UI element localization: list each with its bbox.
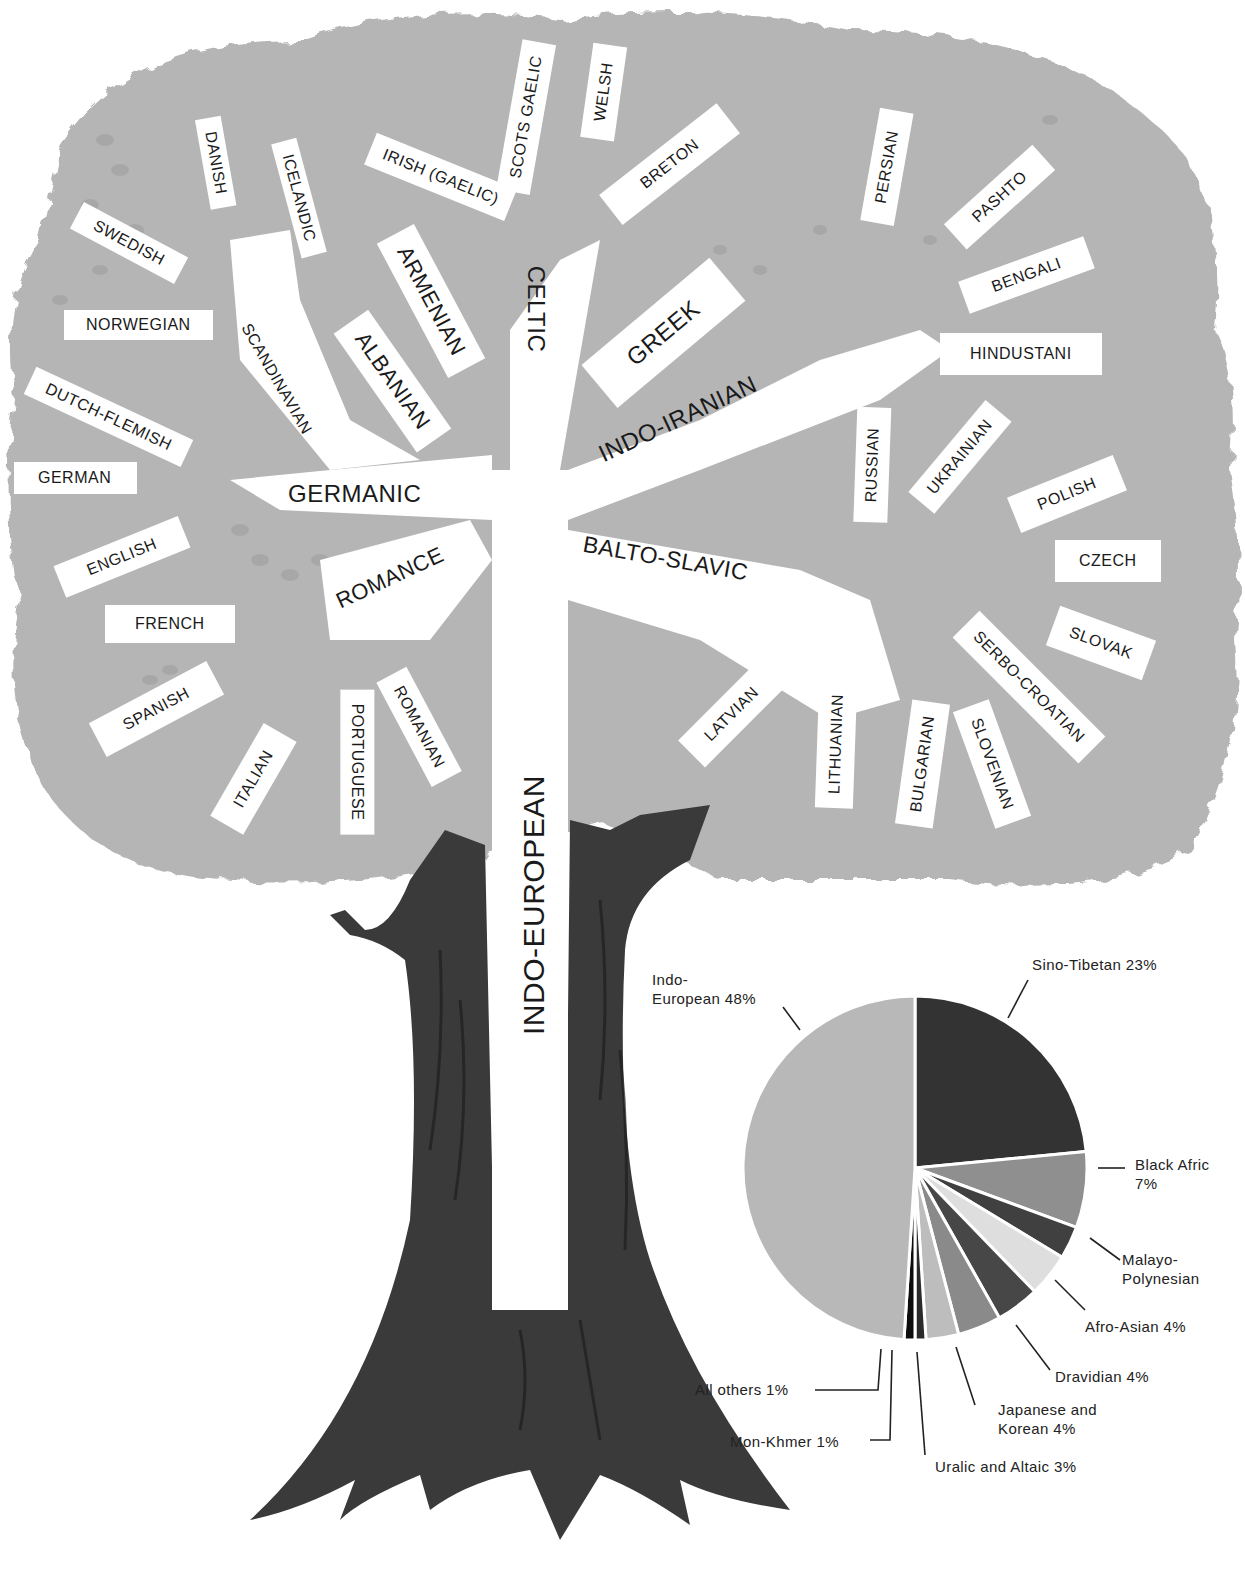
pie-label-malayo-polynesian: Malayo- Polynesian: [1122, 1250, 1199, 1288]
pie-label-uralic-altaic: Uralic and Altaic 3%: [935, 1457, 1076, 1476]
pie-label-malayo-polynesian-line1: Malayo-: [1122, 1250, 1199, 1269]
pie-label-indo-european: Indo- European 48%: [652, 970, 756, 1008]
pie-label-dravidian: Dravidian 4%: [1055, 1367, 1149, 1386]
pie-label-black-african: Black Afric 7%: [1135, 1155, 1209, 1193]
pie-label-japanese-korean-line1: Japanese and: [998, 1400, 1097, 1419]
pie-label-mon-khmer: Mon-Khmer 1%: [730, 1432, 839, 1451]
pie-label-japanese-korean: Japanese and Korean 4%: [998, 1400, 1097, 1438]
pie-label-indo-european-line1: Indo-: [652, 970, 756, 989]
indo-european-language-tree-figure: INDO-EUROPEAN GERMANIC SCANDINAVIAN DANI…: [0, 0, 1245, 1580]
pie-label-malayo-polynesian-line2: Polynesian: [1122, 1269, 1199, 1288]
pie-slice-sino-tibetan: [915, 996, 1086, 1168]
pie-label-black-african-line2: 7%: [1135, 1174, 1209, 1193]
pie-slices: [743, 996, 1087, 1340]
world-language-families-pie-chart: [0, 0, 1245, 1580]
pie-label-japanese-korean-line2: Korean 4%: [998, 1419, 1097, 1438]
pie-label-sino-tibetan: Sino-Tibetan 23%: [1032, 955, 1157, 974]
pie-label-indo-european-line2: European 48%: [652, 989, 756, 1008]
pie-label-all-others: All others 1%: [695, 1380, 789, 1399]
pie-slice-indo-european: [743, 996, 915, 1340]
pie-label-black-african-line1: Black Afric: [1135, 1155, 1209, 1174]
pie-label-afro-asian: Afro-Asian 4%: [1085, 1317, 1186, 1336]
